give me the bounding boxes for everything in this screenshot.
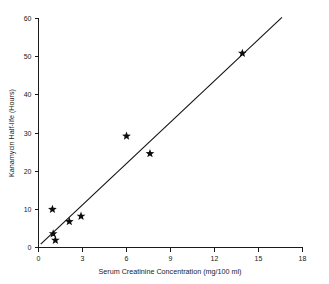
x-tick-label: 0 [37,255,41,262]
y-tick-label: 20 [24,168,32,175]
x-tick-label: 9 [169,255,173,262]
x-tick-label: 6 [125,255,129,262]
regression-line [41,17,282,244]
data-point-star [48,205,57,213]
y-tick-label: 60 [24,15,32,22]
x-axis-title: Serum Creatinine Concentration (mg/100 m… [98,267,241,276]
data-point-star [122,131,131,139]
y-axis-title: Kanamycin Half-life (Hours) [7,89,16,177]
regression-line-path [41,17,282,244]
x-tick-label: 15 [255,255,263,262]
axis-tick-labels: 03691215180102030405060 [24,15,307,261]
data-point-star [49,229,58,237]
y-tick-label: 50 [24,53,32,60]
y-tick-label: 40 [24,91,32,98]
y-tick-label: 0 [28,244,32,251]
x-tick-label: 12 [211,255,219,262]
y-tick-label: 30 [24,130,32,137]
data-point-star [65,217,74,225]
x-tick-label: 18 [299,255,307,262]
data-point-star [77,212,86,220]
x-tick-label: 3 [81,255,85,262]
y-tick-label: 10 [24,206,32,213]
data-point-star [238,49,247,57]
axis-ticks [35,19,303,252]
data-point-star [146,149,155,157]
data-point-star [51,236,60,244]
chart-container: 03691215180102030405060 Serum Creatinine… [0,0,329,284]
scatter-plot: 03691215180102030405060 Serum Creatinine… [0,0,329,284]
axes [39,19,303,248]
